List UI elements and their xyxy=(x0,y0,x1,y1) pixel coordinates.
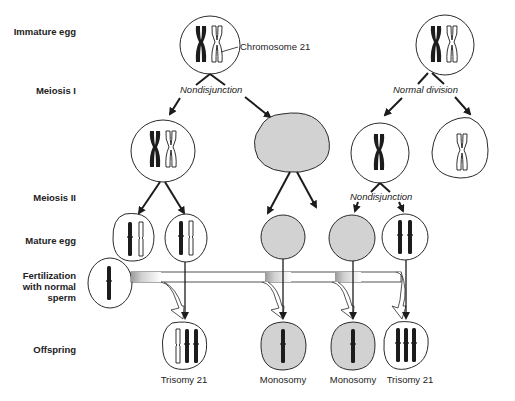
label-offspring: Offspring xyxy=(0,344,76,355)
egg-to-offspring-arrows xyxy=(185,259,406,318)
label-immature-egg: Immature egg xyxy=(0,26,76,37)
nondisjunction-meiosis1-label: Nondisjunction xyxy=(180,84,242,95)
meiosis1-cell-dark-chromosome xyxy=(351,123,409,183)
offspring-trisomy-right xyxy=(384,322,428,370)
mature-egg-4-empty xyxy=(329,215,375,261)
nondisjunction-diagram xyxy=(0,0,515,401)
fertilization-band xyxy=(131,272,406,319)
caption-trisomy-right: Trisomy 21 xyxy=(370,374,450,385)
label-fertilization-line3: sperm xyxy=(0,292,76,303)
meiosis1-cell-no-chromosome xyxy=(254,113,329,172)
label-fertilization: Fertilization with normal sperm xyxy=(0,270,76,303)
label-meiosis-2: Meiosis II xyxy=(0,192,76,203)
caption-monosomy-left: Monosomy xyxy=(243,374,323,385)
mature-egg-1 xyxy=(113,213,154,261)
offspring-trisomy-left xyxy=(162,322,206,369)
chromosome-21-label: Chromosome 21 xyxy=(240,41,310,52)
meiosis1-cell-both-chromosomes xyxy=(131,120,195,182)
sperm-cell xyxy=(88,258,132,308)
immature-egg-left xyxy=(180,16,240,74)
meiosis1-cell-light-chromosome xyxy=(432,118,488,178)
immature-egg-right xyxy=(416,15,474,75)
mature-egg-3-empty xyxy=(261,215,305,259)
mature-egg-2 xyxy=(165,214,207,262)
nondisjunction-meiosis2-label: Nondisjunction xyxy=(350,191,412,202)
offspring-monosomy-right xyxy=(331,322,375,370)
offspring-monosomy-left xyxy=(261,322,306,370)
label-meiosis-1: Meiosis I xyxy=(0,85,76,96)
label-fertilization-line1: Fertilization xyxy=(0,270,76,281)
normal-division-label: Normal division xyxy=(393,84,458,95)
label-fertilization-line2: with normal xyxy=(0,281,76,292)
label-mature-egg: Mature egg xyxy=(0,235,76,246)
caption-trisomy-left: Trisomy 21 xyxy=(144,374,224,385)
meiosis1-left-arrows xyxy=(170,74,270,117)
mature-egg-5 xyxy=(382,214,428,260)
